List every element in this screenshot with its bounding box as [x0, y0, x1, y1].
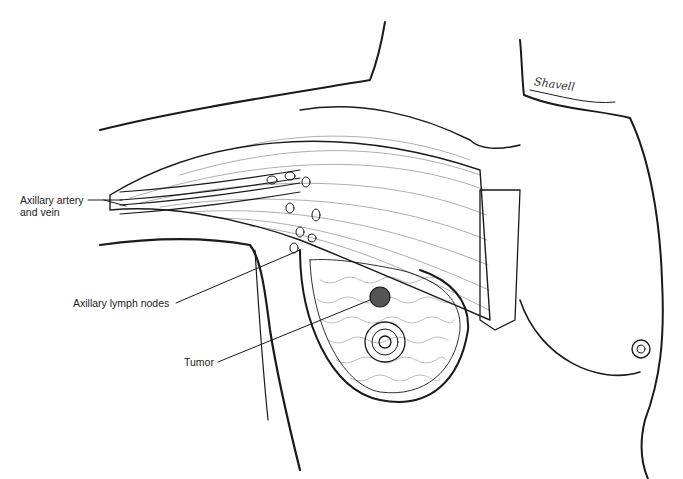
- axillary-vein: [120, 183, 300, 205]
- torso-right-contour: [630, 118, 663, 479]
- arm-lower-contour: [100, 239, 300, 470]
- left-nipple: [379, 336, 391, 348]
- left-breast-contour: [300, 250, 468, 402]
- leader-lymph-nodes: [176, 250, 300, 303]
- axillary-artery: [120, 170, 300, 192]
- left-areola: [365, 322, 405, 362]
- right-nipple: [632, 340, 650, 358]
- label-axillary-lymph-nodes: Axillary lymph nodes: [73, 297, 169, 309]
- arm-upper-contour: [100, 22, 385, 130]
- breast-anatomy-illustration: [0, 0, 683, 479]
- right-breast-contour: [520, 300, 640, 375]
- label-tumor: Tumor: [184, 356, 214, 368]
- label-axillary-artery: Axillary artery and vein: [20, 194, 84, 218]
- breast-tissue: [310, 259, 460, 392]
- leader-tumor: [218, 300, 370, 362]
- tumor: [370, 287, 390, 307]
- pectoralis-muscle: [110, 141, 490, 320]
